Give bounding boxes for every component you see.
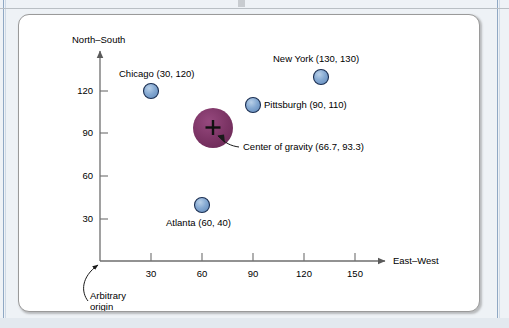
x-tick-label-30: 30 [146, 268, 157, 279]
x-axis-ticks [151, 253, 355, 261]
page-top-speck [238, 0, 245, 7]
arbitrary-origin-label-line1: Arbitrary [90, 290, 126, 301]
y-tick-label-60: 60 [82, 170, 93, 181]
scatter-plot: 120 90 60 30 30 60 90 120 150 North–Sout… [19, 15, 479, 311]
x-tick-label-60: 60 [197, 268, 208, 279]
page-edge-rule-right-inner [499, 0, 500, 328]
x-tick-label-150: 150 [347, 268, 363, 279]
x-tick-label-90: 90 [248, 268, 259, 279]
center-of-gravity-label: Center of gravity (66.7, 93.3) [243, 141, 364, 152]
x-tick-label-120: 120 [296, 268, 312, 279]
y-axis-label: North–South [72, 34, 125, 45]
data-point-chicago [144, 84, 159, 99]
y-tick-label-90: 90 [82, 127, 93, 138]
page-bottom-fade [0, 318, 509, 328]
data-label-pittsburgh: Pittsburgh (90, 110) [264, 99, 347, 110]
page-top-rule [0, 8, 509, 9]
y-axis-ticks [100, 91, 108, 219]
y-tick-label-30: 30 [82, 213, 93, 224]
figure-page: 120 90 60 30 30 60 90 120 150 North–Sout… [0, 0, 509, 328]
data-label-new-york: New York (130, 130) [273, 53, 359, 64]
page-edge-rule-right [497, 0, 498, 328]
data-point-atlanta [195, 198, 210, 213]
arbitrary-origin-label-line2: origin [90, 301, 113, 311]
data-point-new-york [314, 70, 329, 85]
data-label-atlanta: Atlanta (60, 40) [166, 217, 231, 228]
y-tick-label-120: 120 [77, 85, 93, 96]
page-edge-rule-left-inner [5, 0, 6, 328]
data-point-pittsburgh [246, 98, 261, 113]
x-axis-label: East–West [393, 255, 439, 266]
figure-panel: 120 90 60 30 30 60 90 120 150 North–Sout… [18, 14, 480, 312]
center-of-gravity-marker [193, 108, 233, 148]
page-edge-rule-left [3, 0, 4, 328]
data-label-chicago: Chicago (30, 120) [119, 68, 195, 79]
